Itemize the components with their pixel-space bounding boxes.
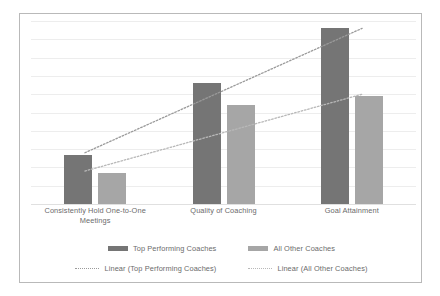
legend-dotted-line-icon	[248, 268, 272, 269]
category-axis: Consistently Hold One-to-OneMeetingsQual…	[31, 206, 416, 240]
legend-label: Linear (Top Performing Coaches)	[104, 264, 216, 273]
bar-group	[193, 21, 255, 204]
bar-all-other	[98, 173, 126, 204]
category-label-line: Quality of Coaching	[159, 206, 287, 216]
bar-group	[321, 21, 383, 204]
legend-row-trendlines: Linear (Top Performing Coaches)Linear (A…	[20, 258, 423, 278]
bar-top-performing	[64, 155, 92, 204]
category-label-line: Goal Attainment	[288, 206, 416, 216]
category-label: Goal Attainment	[288, 206, 416, 216]
category-label-line: Consistently Hold One-to-One	[31, 206, 159, 216]
category-label: Quality of Coaching	[159, 206, 287, 216]
legend-item[interactable]: Linear (All Other Coaches)	[248, 264, 367, 273]
legend-label: Linear (All Other Coaches)	[277, 264, 367, 273]
legend-item[interactable]: Top Performing Coaches	[108, 244, 217, 253]
bars-layer	[31, 21, 416, 204]
bar-top-performing	[321, 28, 349, 204]
category-label: Consistently Hold One-to-OneMeetings	[31, 206, 159, 226]
bar-all-other	[355, 96, 383, 204]
legend-item[interactable]: All Other Coaches	[248, 244, 335, 253]
chart-legend: Top Performing CoachesAll Other Coaches …	[20, 238, 423, 278]
legend-label: Top Performing Coaches	[133, 244, 217, 253]
chart-container: Consistently Hold One-to-OneMeetingsQual…	[19, 13, 422, 283]
bar-top-performing	[193, 83, 221, 204]
plot-area	[31, 21, 416, 204]
legend-dotted-line-icon	[75, 268, 99, 269]
legend-label: All Other Coaches	[273, 244, 335, 253]
bar-all-other	[227, 105, 255, 204]
bar-group	[64, 21, 126, 204]
legend-item[interactable]: Linear (Top Performing Coaches)	[75, 264, 216, 273]
legend-swatch-icon	[248, 246, 268, 251]
legend-row-series: Top Performing CoachesAll Other Coaches	[20, 238, 423, 258]
category-label-line: Meetings	[31, 216, 159, 226]
axis-baseline	[31, 204, 416, 205]
legend-swatch-icon	[108, 246, 128, 251]
